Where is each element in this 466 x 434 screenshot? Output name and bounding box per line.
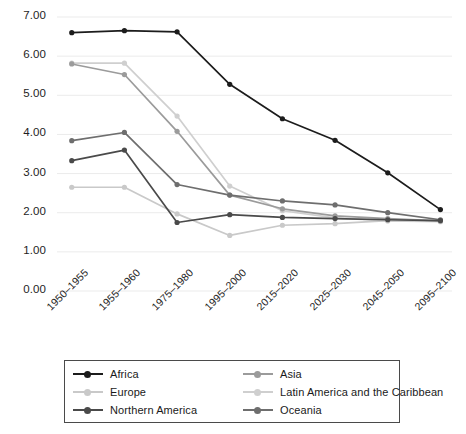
data-point <box>122 147 127 152</box>
fertility-rate-line-chart: 0.001.002.003.004.005.006.007.00 1950–19… <box>0 0 466 434</box>
data-point <box>227 82 232 87</box>
data-point <box>122 72 127 77</box>
legend-label: Asia <box>280 368 302 380</box>
legend-label: Africa <box>110 368 139 380</box>
series-oceania <box>69 130 443 222</box>
legend-label: Europe <box>110 386 146 398</box>
y-tick-label: 2.00 <box>2 205 46 217</box>
data-point <box>69 185 74 190</box>
y-tick-label: 0.00 <box>2 283 46 295</box>
legend-column-right: AsiaLatin America and the CaribbeanOcean… <box>243 365 443 419</box>
data-point <box>122 61 127 66</box>
legend-label: Latin America and the Caribbean <box>280 386 443 398</box>
series-lines <box>69 28 443 238</box>
chart-legend: AfricaEuropeNorthern America AsiaLatin A… <box>64 360 400 423</box>
legend-label: Northern America <box>110 404 197 416</box>
data-point <box>280 206 285 211</box>
data-point <box>438 207 443 212</box>
data-point <box>174 182 179 187</box>
data-point <box>438 218 443 223</box>
data-point <box>174 113 179 118</box>
data-point <box>385 217 390 222</box>
data-point <box>227 233 232 238</box>
legend-swatch-icon <box>73 368 103 380</box>
legend-item-asia[interactable]: Asia <box>243 365 443 383</box>
data-point <box>227 212 232 217</box>
data-point <box>174 129 179 134</box>
data-point <box>122 130 127 135</box>
series-line <box>72 132 441 219</box>
data-point <box>174 211 179 216</box>
data-point <box>332 216 337 221</box>
data-point <box>69 61 74 66</box>
legend-item-oceania[interactable]: Oceania <box>243 401 443 419</box>
series-line <box>72 187 441 235</box>
legend-item-northern-america[interactable]: Northern America <box>73 401 197 419</box>
y-tick-label: 6.00 <box>2 48 46 60</box>
data-point <box>69 30 74 35</box>
data-point <box>122 28 127 33</box>
data-point <box>280 223 285 228</box>
gridlines <box>57 17 452 291</box>
legend-column-left: AfricaEuropeNorthern America <box>73 365 197 419</box>
legend-item-africa[interactable]: Africa <box>73 365 197 383</box>
legend-swatch-icon <box>243 368 273 380</box>
data-point <box>227 193 232 198</box>
y-tick-label: 5.00 <box>2 87 46 99</box>
legend-label: Oceania <box>280 404 322 416</box>
y-tick-label: 1.00 <box>2 244 46 256</box>
legend-swatch-icon <box>243 386 273 398</box>
y-tick-label: 3.00 <box>2 166 46 178</box>
series-line <box>72 31 441 210</box>
data-point <box>280 116 285 121</box>
y-tick-label: 7.00 <box>2 9 46 21</box>
legend-swatch-icon <box>243 404 273 416</box>
data-point <box>385 210 390 215</box>
data-point <box>122 185 127 190</box>
data-point <box>332 221 337 226</box>
legend-swatch-icon <box>73 404 103 416</box>
data-point <box>174 220 179 225</box>
series-latin-america-and-the-caribbean <box>69 61 443 225</box>
legend-item-europe[interactable]: Europe <box>73 383 197 401</box>
data-point <box>332 202 337 207</box>
data-point <box>385 170 390 175</box>
data-point <box>69 158 74 163</box>
data-point <box>227 184 232 189</box>
data-point <box>174 29 179 34</box>
data-point <box>332 138 337 143</box>
legend-swatch-icon <box>73 386 103 398</box>
data-point <box>69 138 74 143</box>
data-point <box>280 215 285 220</box>
y-tick-label: 4.00 <box>2 126 46 138</box>
data-point <box>280 198 285 203</box>
legend-item-latin-america-and-the-caribbean[interactable]: Latin America and the Caribbean <box>243 383 443 401</box>
